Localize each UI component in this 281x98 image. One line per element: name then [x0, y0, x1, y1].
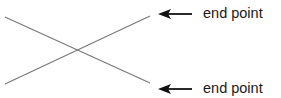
- arrow-bottom-icon: [158, 84, 192, 94]
- arrow-top-icon: [158, 9, 192, 19]
- diagram-canvas: end point end point: [0, 0, 281, 98]
- diagram-svg: end point end point: [0, 0, 281, 98]
- end-point-label-top: end point: [203, 5, 263, 21]
- end-point-label-bottom: end point: [203, 80, 263, 96]
